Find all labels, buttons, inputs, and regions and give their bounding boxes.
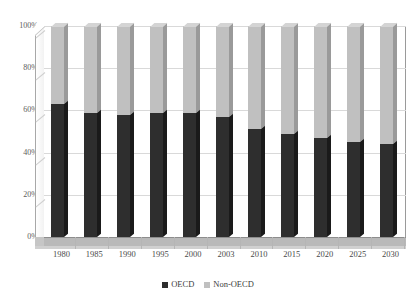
x-axis-tick [305,237,306,249]
bar-side-face-non-oecd [261,23,265,130]
y-axis-tick-label: 0% [4,233,38,241]
y-axis-tick-label: 100% [4,22,38,30]
bar-column[interactable] [117,26,134,237]
bar-side-face-non-oecd [163,23,167,113]
bar-segment-oecd[interactable] [314,138,327,237]
x-axis-tick [75,237,76,249]
y-axis-tick-label: 20% [4,191,38,199]
x-axis-tick [371,237,372,249]
bar-segment-non-oecd[interactable] [281,26,294,134]
bar-side-face-non-oecd [393,23,397,145]
legend-label: OECD [171,279,194,289]
legend-item[interactable]: OECD [162,279,194,289]
bar-column[interactable] [150,26,167,237]
bar-column[interactable] [347,26,364,237]
bar-side-face-oecd [393,141,397,237]
x-axis-tick [207,237,208,249]
bar-column[interactable] [183,26,200,237]
bar-segment-non-oecd[interactable] [380,26,393,144]
bar-column[interactable] [84,26,101,237]
bar-side-face-non-oecd [97,23,101,113]
bar-segment-oecd[interactable] [216,117,229,237]
stacked-column-chart: 0%20%40%60%80%100% 198019851990199520002… [0,0,416,299]
bar-side-face-non-oecd [229,23,233,117]
bar-side-face-non-oecd [360,23,364,142]
x-axis-tick-label: 2030 [371,250,411,259]
plot-floor-corner [35,237,44,246]
x-axis-tick [108,237,109,249]
bar-side-face-non-oecd [64,23,68,104]
light-square-icon [204,282,210,288]
legend-label: Non-OECD [213,279,254,289]
bar-side-face-oecd [229,113,233,237]
bar-segment-non-oecd[interactable] [84,26,97,113]
bar-side-face-non-oecd [130,23,134,115]
x-axis-tick [404,237,405,249]
legend-item[interactable]: Non-OECD [204,279,254,289]
bar-column[interactable] [248,26,265,237]
x-axis-tick [240,237,241,249]
bar-side-face-non-oecd [196,23,200,113]
dark-square-icon [162,282,168,288]
bar-side-face-non-oecd [294,23,298,134]
y-axis-tick-label: 80% [4,64,38,72]
x-axis-tick [174,237,175,249]
bar-column[interactable] [281,26,298,237]
y-axis-tick-label: 60% [4,106,38,114]
bar-segment-non-oecd[interactable] [150,26,163,113]
y-axis: 0%20%40%60%80%100% [0,0,38,299]
bar-column[interactable] [216,26,233,237]
bar-segment-oecd[interactable] [117,115,130,237]
chart-title-clipped [42,0,212,2]
x-axis-tick [272,237,273,249]
x-axis-tick [338,237,339,249]
bar-side-face-oecd [294,130,298,237]
bar-segment-oecd[interactable] [150,113,163,237]
bar-column[interactable] [314,26,331,237]
bar-segment-non-oecd[interactable] [314,26,327,138]
x-axis-tick [141,237,142,249]
bar-segment-oecd[interactable] [281,134,294,237]
bar-segment-oecd[interactable] [380,144,393,237]
bar-segment-non-oecd[interactable] [117,26,130,115]
y-axis-tick-label: 40% [4,149,38,157]
bar-segment-oecd[interactable] [183,113,196,237]
bar-side-face-oecd [360,139,364,237]
bar-side-face-oecd [97,109,101,237]
bar-column[interactable] [380,26,397,237]
bar-side-face-non-oecd [327,23,331,138]
bar-side-face-oecd [163,109,167,237]
bar-segment-oecd[interactable] [347,142,360,237]
bar-side-face-oecd [64,101,68,237]
bar-segment-non-oecd[interactable] [51,26,64,104]
bar-segment-oecd[interactable] [51,104,64,237]
bar-segment-oecd[interactable] [248,129,261,237]
bar-segment-non-oecd[interactable] [347,26,360,142]
bar-side-face-oecd [196,109,200,237]
bar-segment-non-oecd[interactable] [183,26,196,113]
bar-side-face-oecd [327,134,331,237]
bar-segment-non-oecd[interactable] [248,26,261,129]
plot-area [44,26,406,237]
bar-series-container [44,26,406,237]
bar-segment-oecd[interactable] [84,113,97,237]
bar-side-face-oecd [261,126,265,237]
plot-floor [35,237,406,246]
bar-column[interactable] [51,26,68,237]
bar-segment-non-oecd[interactable] [216,26,229,117]
chart-legend: OECDNon-OECD [0,279,416,289]
bar-side-face-oecd [130,111,134,237]
